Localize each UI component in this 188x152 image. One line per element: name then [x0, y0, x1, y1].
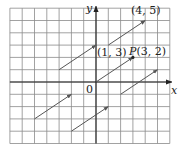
grid [10, 8, 170, 143]
labels: y x 0 (4, 5) (1, 3) P(3, 2) [85, 2, 178, 97]
y-axis-label: y [85, 2, 93, 15]
point-label-1-3: (1, 3) [97, 46, 127, 59]
x-axis-label: x [171, 84, 178, 97]
point-label-4-5: (4, 5) [131, 4, 161, 17]
point-label-p: P(3, 2) [128, 45, 166, 58]
origin-label: 0 [86, 83, 93, 96]
vector-diagram: y x 0 (4, 5) (1, 3) P(3, 2) [0, 0, 188, 152]
